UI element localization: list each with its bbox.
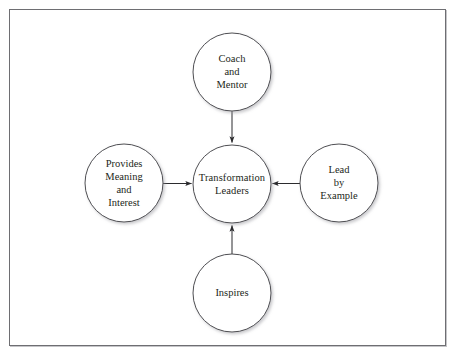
- node-circle-coach-and-mentor[interactable]: [193, 33, 271, 111]
- diagram-svg: [0, 0, 461, 360]
- node-circle-inspires[interactable]: [193, 254, 271, 332]
- node-circle-transformation-leaders[interactable]: [193, 145, 271, 223]
- node-circle-lead-by-example[interactable]: [300, 144, 378, 222]
- node-circle-provides-meaning-and-interest[interactable]: [85, 144, 163, 222]
- diagram-canvas: Coach and Mentor Provides Meaning and In…: [0, 0, 461, 360]
